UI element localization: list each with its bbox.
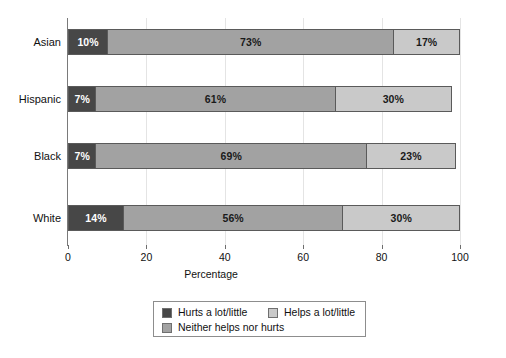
bar-row[interactable]: 7%69%23% [68, 143, 460, 169]
x-tick-mark [460, 245, 461, 249]
legend-label: Helps a lot/little [284, 307, 355, 318]
x-tick-label: 0 [65, 251, 71, 263]
y-axis-category-labels: AsianHispanicBlackWhite [0, 18, 61, 245]
x-axis-title-text: Percentage [184, 268, 238, 280]
y-axis-label-hispanic: Hispanic [3, 93, 61, 105]
legend-item[interactable]: Neither helps nor hurts [162, 322, 284, 333]
bar-segment-label: 7% [75, 150, 90, 162]
bar-segment[interactable]: 14% [68, 205, 123, 231]
bar-segment[interactable]: 30% [342, 205, 460, 231]
bar-segment-label: 61% [205, 93, 226, 105]
x-tick-label: 80 [376, 251, 388, 263]
bar-segment[interactable]: 30% [335, 86, 453, 112]
stacked-bar-chart: 10%73%17%7%61%30%7%69%23%14%56%30% Asian… [0, 0, 506, 358]
bar-row[interactable]: 7%61%30% [68, 86, 460, 112]
x-tick-mark [146, 245, 147, 249]
x-tick-label: 20 [141, 251, 153, 263]
bar-segment[interactable]: 7% [68, 143, 95, 169]
bar-segment[interactable]: 7% [68, 86, 95, 112]
x-tick-label: 40 [219, 251, 231, 263]
x-axis-title: Percentage [0, 268, 506, 280]
y-axis-label-white: White [3, 212, 61, 224]
bar-segment[interactable]: 61% [95, 86, 334, 112]
bar-segment[interactable]: 17% [393, 29, 460, 55]
bar-row[interactable]: 14%56%30% [68, 205, 460, 231]
legend-swatch-icon [268, 308, 278, 318]
gridline-100 [460, 18, 461, 245]
bar-segment-label: 17% [416, 36, 437, 48]
bar-segment[interactable]: 56% [123, 205, 343, 231]
bar-segment-label: 30% [383, 93, 404, 105]
legend-item[interactable]: Hurts a lot/little [162, 307, 247, 318]
bar-segment[interactable]: 10% [68, 29, 107, 55]
x-tick-label: 100 [451, 251, 469, 263]
x-tick-mark [225, 245, 226, 249]
chart-legend: Hurts a lot/littleNeither helps nor hurt… [153, 301, 366, 337]
bar-segment[interactable]: 73% [107, 29, 393, 55]
bar-segment[interactable]: 23% [366, 143, 456, 169]
plot-area: 10%73%17%7%61%30%7%69%23%14%56%30% [68, 18, 460, 245]
x-tick-label: 60 [297, 251, 309, 263]
x-tick-mark [68, 245, 69, 249]
bar-segment[interactable]: 69% [95, 143, 365, 169]
legend-swatch-icon [162, 323, 172, 333]
y-axis-spine [67, 18, 68, 246]
bar-segment-label: 7% [75, 93, 90, 105]
legend-label: Neither helps nor hurts [178, 322, 284, 333]
bar-row[interactable]: 10%73%17% [68, 29, 460, 55]
bar-segment-label: 69% [221, 150, 242, 162]
x-tick-mark [382, 245, 383, 249]
legend-swatch-icon [162, 308, 172, 318]
bar-segment-label: 14% [85, 212, 106, 224]
bar-segment-label: 30% [391, 212, 412, 224]
bar-segment-label: 10% [77, 36, 98, 48]
y-axis-label-black: Black [3, 150, 61, 162]
legend-label: Hurts a lot/little [178, 307, 247, 318]
x-tick-mark [303, 245, 304, 249]
x-axis-ticks: 020406080100 [68, 245, 460, 267]
y-axis-label-asian: Asian [3, 36, 61, 48]
bar-segment-label: 23% [400, 150, 421, 162]
bar-segment-label: 56% [222, 212, 243, 224]
legend-item[interactable]: Helps a lot/little [268, 307, 355, 318]
bar-segment-label: 73% [240, 36, 261, 48]
